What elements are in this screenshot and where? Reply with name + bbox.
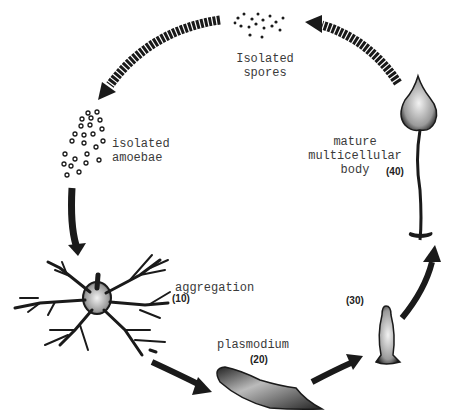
dashed-arrow-spores-to-amoebae (98, 20, 220, 100)
migration-hours: (30) (346, 295, 364, 306)
mature-label-line2: multicellular (300, 149, 410, 163)
label-isolated-spores: Isolated spores (225, 52, 305, 80)
arrow-migration-to-mature (402, 245, 441, 318)
spores-icon (234, 13, 285, 39)
arrow-aggregation-to-plasmodium (152, 362, 212, 395)
mature-hours: (40) (386, 166, 404, 177)
arrow-amoebae-to-aggregation (68, 188, 86, 256)
migrating-slug-icon (376, 306, 400, 364)
spores-label-line2: spores (225, 66, 305, 80)
mature-label-line1: mature (300, 135, 410, 149)
amoebae-label-line1: isolated (112, 137, 170, 151)
label-isolated-amoebae: isolated amoebae (112, 137, 170, 165)
plasmodium-icon (217, 367, 322, 409)
aggregation-icon (15, 255, 170, 355)
label-plasmodium: plasmodium (217, 338, 289, 352)
amoebae-label-line2: amoebae (112, 151, 170, 165)
arrow-plasmodium-to-migration (312, 354, 363, 382)
aggregation-hours: (10) (172, 293, 190, 304)
plasmodium-hours: (20) (250, 354, 268, 365)
spores-label-line1: Isolated (225, 52, 305, 66)
amoebae-icon (62, 110, 105, 177)
